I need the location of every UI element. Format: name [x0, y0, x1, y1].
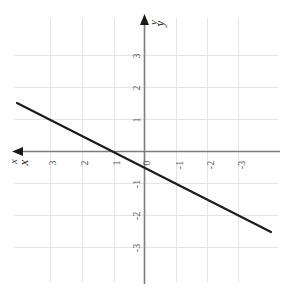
y-tick-label-3: 3: [132, 49, 142, 63]
y-tick-label-neg1: -1: [132, 176, 142, 192]
x-tick-label-0: 0: [142, 156, 152, 170]
x-tick-label-neg1: -1: [175, 157, 185, 173]
x-tick-label-neg2: -2: [206, 157, 216, 173]
y-tick-label-2: 2: [132, 81, 142, 95]
y-tick-label-neg2: -2: [132, 208, 142, 224]
x-tick-label-3: 3: [48, 156, 58, 170]
y-tick-label-1: 1: [132, 113, 142, 127]
coordinate-plane-svg: [0, 0, 285, 288]
x-axis-label-mark: x: [8, 155, 19, 169]
y-axis-label-mark: y: [148, 16, 159, 30]
x-tick-label-neg3: -3: [237, 157, 247, 173]
plot-background: [0, 0, 285, 288]
y-tick-label-neg3: -3: [132, 240, 142, 256]
x-tick-label-2: 2: [80, 156, 90, 170]
x-tick-label-1: 1: [112, 156, 122, 170]
graph-canvas: 3 2 1 0 -1 -2 -3 3 2 1 -1 -2 -3 y y x x: [0, 0, 285, 288]
